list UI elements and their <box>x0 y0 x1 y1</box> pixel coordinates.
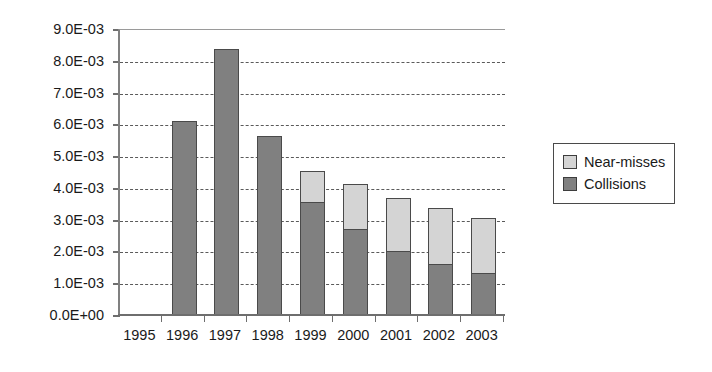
gridline <box>120 62 505 63</box>
x-axis-label-2001: 2001 <box>380 327 412 343</box>
chart-legend: Near-misses Collisions <box>553 143 675 204</box>
x-axis-tick-mark <box>417 315 418 322</box>
x-axis-tick-mark <box>246 315 247 322</box>
legend-label-near-misses: Near-misses <box>584 155 665 170</box>
bar-segment-near-misses <box>428 208 453 264</box>
bar-segment-near-misses <box>343 184 368 228</box>
bar-segment-collisions <box>471 273 496 316</box>
x-axis-label-2003: 2003 <box>465 327 497 343</box>
bar-segment-near-misses <box>386 198 411 250</box>
legend-swatch-collisions <box>563 177 577 191</box>
x-axis-label-1999: 1999 <box>294 327 326 343</box>
x-axis-label-2000: 2000 <box>337 327 369 343</box>
x-axis-tick-mark <box>204 315 205 322</box>
bar-segment-near-misses <box>300 171 325 201</box>
bar-2000 <box>343 184 368 316</box>
y-axis-tick-label: 2.0E-03 <box>0 244 104 259</box>
bar-segment-collisions <box>343 229 368 316</box>
bar-2001 <box>386 198 411 316</box>
y-axis-tick-label: 8.0E-03 <box>0 54 104 69</box>
bar-segment-collisions <box>386 251 411 316</box>
bar-1998 <box>257 136 282 316</box>
bar-segment-collisions <box>172 121 197 316</box>
plot-area <box>118 29 505 316</box>
bar-segment-collisions <box>300 202 325 316</box>
x-axis-tick-mark <box>375 315 376 322</box>
bar-chart: 0.0E+001.0E-032.0E-033.0E-034.0E-035.0E-… <box>0 0 712 372</box>
x-axis-tick-mark <box>289 315 290 322</box>
y-axis-tick-label: 9.0E-03 <box>0 22 104 37</box>
x-axis-tick-mark <box>460 315 461 322</box>
x-axis-tick-mark <box>161 315 162 322</box>
bar-segment-collisions <box>428 264 453 316</box>
legend-item-near-misses: Near-misses <box>563 151 665 173</box>
x-axis-tick-mark <box>503 315 504 322</box>
x-axis-label-1998: 1998 <box>252 327 284 343</box>
y-axis-tick-label: 4.0E-03 <box>0 181 104 196</box>
y-axis-tick-label: 5.0E-03 <box>0 149 104 164</box>
gridline <box>120 94 505 95</box>
bar-2002 <box>428 208 453 316</box>
y-axis-tick-label: 6.0E-03 <box>0 117 104 132</box>
bar-segment-collisions <box>214 49 239 316</box>
x-axis-label-1995: 1995 <box>123 327 155 343</box>
legend-label-collisions: Collisions <box>584 177 646 192</box>
bar-segment-collisions <box>257 136 282 316</box>
bar-2003 <box>471 218 496 317</box>
y-axis-tick-label: 1.0E-03 <box>0 276 104 291</box>
x-axis-label-2002: 2002 <box>423 327 455 343</box>
y-axis-tick-label: 7.0E-03 <box>0 85 104 100</box>
bar-1999 <box>300 171 325 316</box>
x-axis-label-1996: 1996 <box>166 327 198 343</box>
legend-swatch-near-misses <box>563 155 577 169</box>
bar-1997 <box>214 49 239 316</box>
x-axis-tick-mark <box>332 315 333 322</box>
bar-segment-near-misses <box>471 218 496 274</box>
x-axis-label-1997: 1997 <box>209 327 241 343</box>
x-axis: 199519961997199819992000200120022003 <box>118 315 503 355</box>
legend-item-collisions: Collisions <box>563 173 665 195</box>
y-axis-tick-label: 0.0E+00 <box>0 308 104 323</box>
bar-1996 <box>172 121 197 316</box>
y-axis-tick-label: 3.0E-03 <box>0 212 104 227</box>
